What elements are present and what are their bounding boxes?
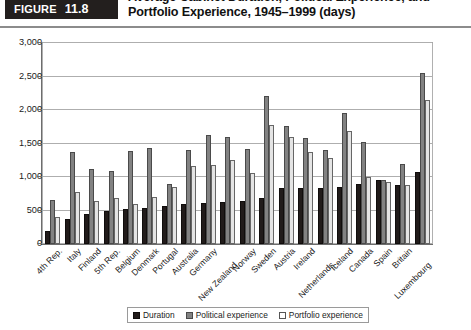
y-axis-labels: 05001,0001,5002,0002,5003,000 — [0, 42, 42, 245]
legend-item: Political experience — [186, 310, 268, 320]
figure-number-badge: Figure 11.8 — [5, 0, 118, 19]
y-axis-tick-mark — [37, 76, 42, 77]
legend-swatch-political — [186, 312, 193, 319]
bar-group — [179, 43, 198, 244]
bar-portfolio — [75, 192, 80, 244]
bar-portfolio — [211, 165, 216, 244]
y-axis-tick-mark — [37, 109, 42, 110]
bar-group — [257, 43, 276, 244]
legend-label: Portfolio experience — [289, 310, 363, 320]
bar-portfolio — [172, 187, 177, 244]
bar-portfolio — [328, 158, 333, 244]
figure-title: Average Cabinet Duration, Political Expe… — [128, 0, 468, 19]
legend-item: Duration — [133, 310, 175, 320]
bar-group — [82, 43, 101, 244]
legend-label: Duration — [143, 310, 175, 320]
x-axis-tick-label: 4th Rep. — [34, 246, 64, 276]
bar-group — [218, 43, 237, 244]
bar-group — [354, 43, 373, 244]
figure-label: Figure — [14, 3, 57, 15]
bar-portfolio — [347, 131, 352, 244]
bar-group — [393, 43, 412, 244]
bar-group — [276, 43, 295, 244]
chart-legend: DurationPolitical experiencePortfolio ex… — [127, 307, 369, 323]
bar-portfolio — [133, 204, 138, 244]
y-axis-tick-mark — [37, 210, 42, 211]
bar-portfolio — [269, 125, 274, 244]
figure-title-line-2: Portfolio Experience, 1945–1999 (days) — [128, 5, 468, 20]
figure-title-line-1: Average Cabinet Duration, Political Expe… — [128, 0, 468, 5]
figure-number: 11.8 — [65, 2, 89, 16]
y-axis-tick-mark — [37, 143, 42, 144]
bar-portfolio — [152, 197, 157, 244]
bar-portfolio — [425, 100, 430, 244]
bar-group — [413, 43, 432, 244]
bar-portfolio — [386, 182, 391, 244]
legend-label: Political experience — [196, 310, 268, 320]
bar-portfolio — [230, 160, 235, 244]
bar-group — [238, 43, 257, 244]
bar-portfolio — [366, 177, 371, 244]
bar-group — [160, 43, 179, 244]
bar-group — [335, 43, 354, 244]
bar-group — [121, 43, 140, 244]
bar-group — [374, 43, 393, 244]
bar-portfolio — [114, 198, 119, 244]
y-axis-tick-mark — [37, 243, 42, 244]
bar-group — [101, 43, 120, 244]
legend-swatch-portfolio — [279, 312, 286, 319]
bar-group — [315, 43, 334, 244]
legend-swatch-duration — [133, 312, 140, 319]
y-axis-tick-mark — [37, 42, 42, 43]
bar-group — [296, 43, 315, 244]
y-axis-tick-mark — [37, 176, 42, 177]
bar-portfolio — [191, 166, 196, 244]
bar-portfolio — [308, 152, 313, 244]
bar-group — [140, 43, 159, 244]
bar-portfolio — [250, 173, 255, 244]
bar-groups — [43, 43, 432, 244]
header-divider — [0, 26, 471, 28]
figure-header: Figure 11.8 Average Cabinet Duration, Po… — [0, 0, 471, 26]
bar-portfolio — [289, 137, 294, 244]
x-axis-tick-label: Britain — [390, 246, 414, 270]
bar-portfolio — [55, 217, 60, 244]
legend-item: Portfolio experience — [279, 310, 363, 320]
bar-group — [199, 43, 218, 244]
x-axis-labels: 4th Rep.ItalyFinland5th Rep.BelgiumDenma… — [43, 246, 432, 306]
bar-group — [43, 43, 62, 244]
x-axis-line — [41, 244, 433, 245]
bar-group — [62, 43, 81, 244]
bar-portfolio — [94, 201, 99, 244]
bar-portfolio — [405, 185, 410, 244]
